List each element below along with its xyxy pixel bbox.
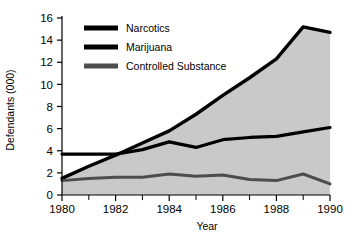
plot-area bbox=[62, 27, 330, 195]
legend-swatch bbox=[84, 26, 118, 31]
x-tick-label: 1982 bbox=[103, 203, 129, 215]
y-axis-tick-labels: 0246810121416 bbox=[40, 12, 53, 201]
x-axis-title: Year bbox=[196, 220, 218, 232]
y-axis-title: Defendants (000) bbox=[4, 69, 16, 150]
chart-container: 0246810121416 198019821984198619881990 D… bbox=[0, 0, 356, 239]
y-tick-label: 0 bbox=[47, 189, 53, 201]
drug-defendants-area-chart: 0246810121416 198019821984198619881990 D… bbox=[0, 0, 356, 239]
y-tick-label: 16 bbox=[40, 12, 53, 24]
area-fill-region bbox=[62, 27, 330, 195]
legend-swatch bbox=[84, 45, 118, 50]
y-tick-label: 6 bbox=[47, 123, 53, 135]
y-tick-label: 10 bbox=[40, 79, 53, 91]
legend-label: Marijuana bbox=[126, 41, 172, 53]
y-tick-label: 12 bbox=[40, 56, 53, 68]
x-axis-ticks bbox=[62, 195, 330, 201]
legend-swatch bbox=[84, 64, 118, 69]
x-tick-label: 1986 bbox=[210, 203, 236, 215]
x-tick-label: 1980 bbox=[49, 203, 75, 215]
legend-label: Narcotics bbox=[126, 22, 170, 34]
y-tick-label: 2 bbox=[47, 167, 53, 179]
y-tick-label: 14 bbox=[40, 34, 53, 46]
x-axis-tick-labels: 198019821984198619881990 bbox=[49, 203, 343, 215]
legend-label: Controlled Substance bbox=[126, 60, 227, 72]
y-tick-label: 8 bbox=[47, 101, 53, 113]
x-tick-label: 1988 bbox=[264, 203, 290, 215]
y-axis-ticks bbox=[57, 18, 62, 195]
y-tick-label: 4 bbox=[47, 145, 54, 157]
x-tick-label: 1990 bbox=[317, 203, 343, 215]
x-tick-label: 1984 bbox=[156, 203, 182, 215]
chart-legend: NarcoticsMarijuanaControlled Substance bbox=[84, 22, 227, 72]
